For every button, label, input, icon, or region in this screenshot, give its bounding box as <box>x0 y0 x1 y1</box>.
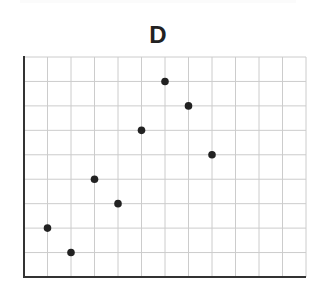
data-point <box>91 175 99 183</box>
data-point <box>114 200 122 208</box>
data-points <box>44 78 216 257</box>
data-point <box>185 102 193 110</box>
data-point <box>138 127 146 135</box>
data-point <box>208 151 216 159</box>
data-point <box>44 224 52 232</box>
grid-lines <box>24 57 306 277</box>
data-point <box>161 78 169 86</box>
data-point <box>67 249 75 257</box>
scatter-plot <box>0 0 316 301</box>
